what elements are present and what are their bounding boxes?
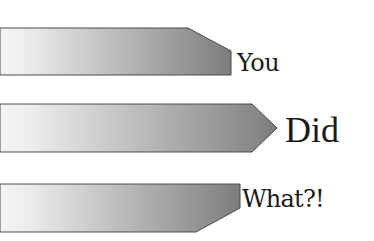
label-what: What?! xyxy=(242,187,324,211)
bar-you-shape xyxy=(0,28,231,75)
label-did: Did xyxy=(285,112,339,148)
bar-did-shape xyxy=(0,104,277,152)
bar-what-shape xyxy=(0,184,240,232)
label-you: You xyxy=(237,51,279,75)
arrow-diagram: You Did What?! xyxy=(0,0,374,241)
